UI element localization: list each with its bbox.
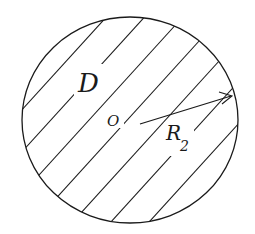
disk-boundary <box>22 17 238 223</box>
radius-label: R <box>165 121 181 145</box>
radius-subscript: 2 <box>179 138 189 154</box>
disk-diagram: D O R 2 <box>0 0 255 234</box>
radius-arrow <box>140 96 231 124</box>
region-label: D <box>77 68 99 98</box>
center-label: O <box>107 112 119 130</box>
hatch-lines <box>0 0 255 234</box>
